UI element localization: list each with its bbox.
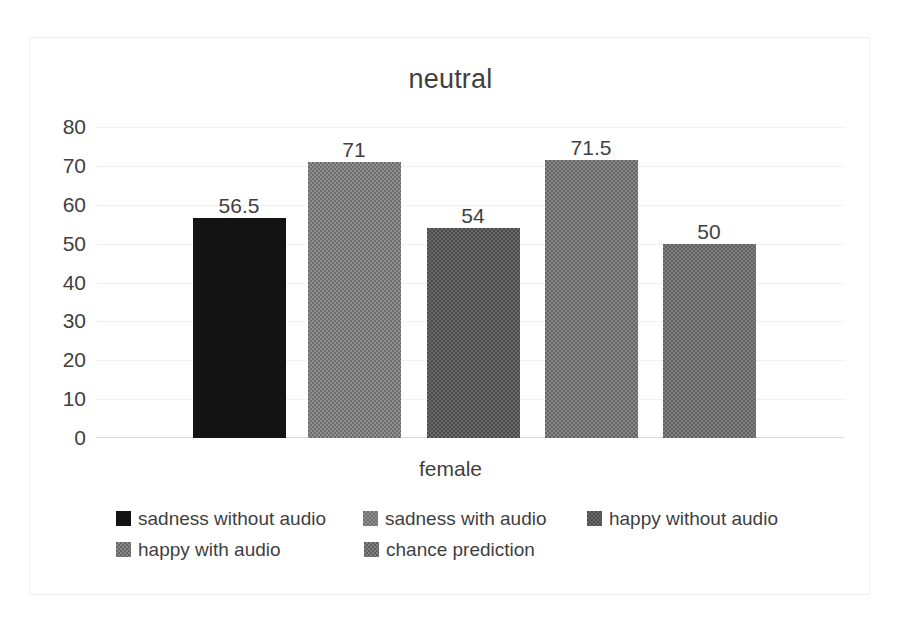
y-tick-label: 0 <box>42 426 86 450</box>
y-tick-label: 10 <box>42 387 86 411</box>
legend-item-sadness-with-audio[interactable]: sadness with audio <box>363 508 587 530</box>
legend-item-happy-with-audio[interactable]: happy with audio <box>116 539 364 561</box>
legend-swatch-icon <box>363 511 378 526</box>
legend-item-label: happy with audio <box>138 539 281 561</box>
gridline <box>96 166 844 167</box>
gridline <box>96 127 844 128</box>
legend-item-label: sadness without audio <box>138 508 326 530</box>
legend-item-happy-without-audio[interactable]: happy without audio <box>587 508 806 530</box>
bar-value-label: 71.5 <box>571 136 612 160</box>
legend-swatch-icon <box>116 511 131 526</box>
bar-value-label: 50 <box>697 220 720 244</box>
legend-item-sadness-without-audio[interactable]: sadness without audio <box>116 508 363 530</box>
y-tick-label: 50 <box>42 232 86 256</box>
y-tick-label: 20 <box>42 348 86 372</box>
legend-row: sadness without audio sadness with audio… <box>116 503 806 534</box>
legend-swatch-icon <box>364 542 379 557</box>
bar-happy-with-audio[interactable] <box>545 160 638 438</box>
bar-sadness-with-audio[interactable] <box>308 162 401 438</box>
plot-area: 56.5 71 54 71.5 50 <box>96 127 844 438</box>
legend-item-label: sadness with audio <box>385 508 547 530</box>
x-axis-label: female <box>30 457 871 481</box>
legend-item-label: happy without audio <box>609 508 778 530</box>
bar-value-label: 54 <box>461 204 484 228</box>
y-tick-label: 80 <box>42 115 86 139</box>
bar-happy-without-audio[interactable] <box>427 228 520 438</box>
y-tick-label: 40 <box>42 271 86 295</box>
legend-row: happy with audio chance prediction <box>116 534 806 565</box>
legend-item-label: chance prediction <box>386 539 535 561</box>
bar-value-label: 56.5 <box>219 194 260 218</box>
chart-title: neutral <box>30 64 871 95</box>
legend-swatch-icon <box>587 511 602 526</box>
bar-value-label: 71 <box>342 138 365 162</box>
y-tick-label: 70 <box>42 154 86 178</box>
y-tick-label: 30 <box>42 309 86 333</box>
bar-chance-prediction[interactable] <box>663 244 756 438</box>
legend-swatch-icon <box>116 542 131 557</box>
legend-item-chance-prediction[interactable]: chance prediction <box>364 539 589 561</box>
chart-container: neutral 80 70 60 50 40 30 20 10 0 56.5 7… <box>29 37 870 595</box>
bar-sadness-without-audio[interactable] <box>193 218 286 438</box>
y-axis: 80 70 60 50 40 30 20 10 0 <box>42 127 86 438</box>
y-tick-label: 60 <box>42 193 86 217</box>
chart-legend: sadness without audio sadness with audio… <box>116 503 806 565</box>
